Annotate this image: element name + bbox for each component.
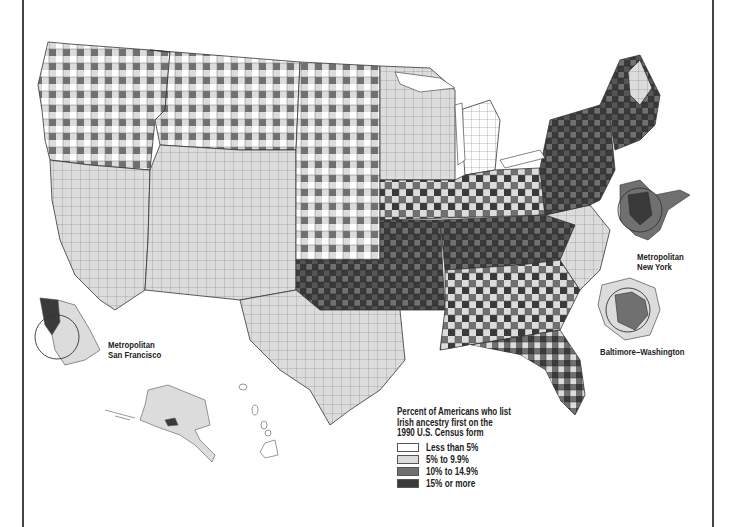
inset-new-york <box>618 180 690 240</box>
sf-line2: San Francisco <box>108 350 161 360</box>
region-texas <box>240 290 405 425</box>
alaska <box>105 385 215 462</box>
legend-label: 15% or more <box>426 478 475 489</box>
region-northern-rockies <box>150 50 300 150</box>
map-legend: Percent of Americans who list Irish ance… <box>397 407 567 490</box>
bw-line1: Baltimore–Washington <box>600 347 685 357</box>
legend-item-less-than-5: Less than 5% <box>397 442 567 454</box>
region-northeast <box>540 105 615 215</box>
region-southwest <box>145 145 296 300</box>
legend-swatch-white <box>397 443 419 452</box>
label-metropolitan-new-york: Metropolitan New York <box>637 252 684 272</box>
legend-swatch-mid <box>397 467 419 476</box>
region-california-nevada <box>50 160 150 310</box>
contiguous-us <box>38 42 660 425</box>
ny-line2: New York <box>637 262 684 272</box>
us-choropleth-map <box>0 0 741 527</box>
hawaii <box>239 384 278 458</box>
legend-item-10-to-14-9: 10% to 14.9% <box>397 466 567 478</box>
legend-title-line3: 1990 U.S. Census form <box>397 428 533 439</box>
legend-item-5-to-9-9: 5% to 9.9% <box>397 454 567 466</box>
region-michigan <box>460 100 500 175</box>
legend-label: 5% to 9.9% <box>426 454 469 465</box>
inset-baltimore-washington <box>598 278 660 340</box>
lake-erie <box>500 150 545 168</box>
region-pacific-northwest <box>38 42 170 170</box>
inset-san-francisco <box>35 298 100 365</box>
legend-item-15-or-more: 15% or more <box>397 478 567 490</box>
legend-swatch-dark <box>397 479 419 488</box>
legend-label: 10% to 14.9% <box>426 466 478 477</box>
legend-swatch-light <box>397 455 419 464</box>
region-great-plains <box>296 62 380 260</box>
label-metropolitan-san-francisco: Metropolitan San Francisco <box>108 340 161 360</box>
legend-label: Less than 5% <box>426 442 478 453</box>
label-baltimore-washington: Baltimore–Washington <box>600 347 685 357</box>
